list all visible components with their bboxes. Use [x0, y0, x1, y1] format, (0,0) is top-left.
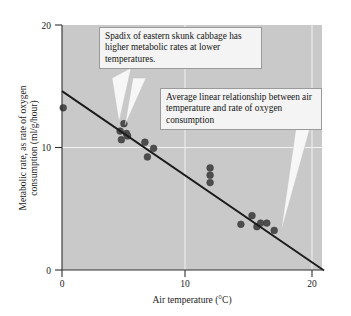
data-point	[118, 136, 125, 143]
data-point	[271, 227, 278, 234]
y-tick-label-20: 20	[42, 21, 52, 31]
data-point	[238, 221, 245, 228]
y-tick-label-0: 0	[46, 266, 51, 276]
x-tick-label-0: 0	[60, 279, 65, 289]
annotation-callout-regression: Average linear relationship between air …	[160, 88, 322, 130]
annotation-callout-spadix: Spadix of eastern skunk cabbage has high…	[99, 27, 262, 69]
x-tick-label-20: 20	[307, 279, 317, 289]
data-point	[60, 104, 67, 111]
y-tick-label-10: 10	[42, 143, 52, 153]
data-point	[207, 165, 214, 172]
y-axis-title-line1: Metabolic rate, as rate of oxygen	[18, 85, 28, 210]
scatter-plot-figure: 20 10 0 0 10 20 Air temperature (°C) Met…	[0, 0, 351, 316]
data-point	[142, 139, 149, 146]
data-point	[150, 145, 157, 152]
data-point	[207, 172, 214, 179]
x-tick-label-10: 10	[180, 279, 190, 289]
data-point	[263, 220, 270, 227]
y-axis-title-line2: consumption (ml/g/hour)	[29, 100, 40, 195]
data-point	[144, 154, 151, 161]
x-axis-title: Air temperature (°C)	[152, 295, 231, 306]
data-point	[207, 179, 214, 186]
data-point	[249, 212, 256, 219]
